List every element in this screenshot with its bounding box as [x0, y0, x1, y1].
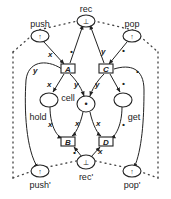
place-get-label: get [128, 112, 141, 122]
arc-label-C-cell: y [94, 80, 100, 89]
transition-D: D [99, 137, 113, 147]
place-rec-prime-label: rec' [79, 172, 94, 182]
place-pop-token: ↑ [130, 33, 134, 40]
transition-D-label: D [103, 138, 109, 147]
arc-get-D [111, 107, 122, 138]
arc-label-push-A: x [47, 50, 53, 59]
place-push: push ↑ [30, 19, 50, 42]
place-rec-token: ⊥ [83, 18, 89, 25]
arc-label-cell-D: x [95, 119, 101, 128]
place-pop-prime: pop' ↑ [123, 165, 141, 190]
place-get: get [114, 93, 141, 122]
arc-label-C-get: • [122, 79, 125, 88]
place-pop-prime-token: ↑ [130, 168, 134, 175]
arc-label-pop-C: • [122, 46, 125, 55]
place-hold: hold [29, 93, 58, 122]
arc-label-get-D: • [122, 120, 125, 129]
transition-B-label: B [65, 138, 71, 147]
arc-label-recprime-D: x [97, 147, 103, 156]
arc-A-rec [70, 25, 83, 63]
place-cell-token: • [84, 99, 87, 109]
place-push-prime-label: push' [29, 180, 51, 190]
arc-label-A-rec: • [70, 47, 73, 56]
arc-C-get [110, 74, 120, 92]
arc-A-hold [53, 74, 64, 92]
arc-label-recprime-B: • [73, 148, 76, 157]
place-rec: rec ⊥ [77, 4, 95, 27]
transition-C-label: C [103, 65, 109, 74]
arc-label-A-pushprime: y [32, 66, 38, 75]
arc-label-hold-B: x [47, 120, 53, 129]
place-rec-label: rec [80, 4, 93, 14]
arc-C-rec [90, 25, 104, 63]
place-push-prime-token: ↑ [38, 168, 42, 175]
place-pop-prime-label: pop' [124, 180, 141, 190]
arc-push-A [44, 42, 64, 64]
place-rec-prime: rec' ⊥ [77, 155, 95, 182]
place-cell-label: cell [61, 93, 75, 103]
place-hold-label: hold [29, 112, 46, 122]
petri-net-diagram: rec ⊥ push ↑ pop ↑ cell • hold get rec' … [0, 0, 171, 199]
arc-label-C-rec: y [100, 47, 106, 56]
arc-label-A-hold: x [46, 80, 52, 89]
place-pop-label: pop [124, 19, 139, 29]
place-push-label: push [30, 19, 50, 29]
place-pop: pop ↑ [123, 19, 141, 42]
transition-C: C [99, 64, 113, 74]
transition-A: A [61, 64, 75, 74]
arc-label-A-cell: y [73, 80, 79, 89]
arc-label-cell-B: x [74, 119, 80, 128]
transition-A-label: A [64, 65, 71, 74]
arc-label-C-popprime: • [136, 67, 139, 76]
place-push-prime: push' ↑ [29, 165, 51, 190]
place-rec-prime-token: ⊥ [83, 159, 89, 166]
place-push-token: ↑ [38, 33, 42, 40]
transition-B: B [61, 137, 75, 147]
